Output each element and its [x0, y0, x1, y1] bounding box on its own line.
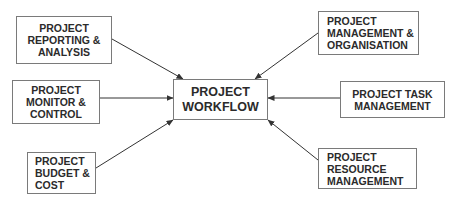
node-project-management-organisation: PROJECT MANAGEMENT & ORGANISATION: [318, 11, 419, 55]
node-project-budget-cost: PROJECT BUDGET & COST: [27, 152, 96, 194]
node-label-line: MONITOR &: [26, 96, 86, 108]
arrow-management-to-workflow: [255, 33, 318, 79]
node-label-line: MANAGEMENT: [354, 100, 430, 112]
node-label-line: PROJECT: [39, 22, 89, 34]
node-label-line: MANAGEMENT: [327, 175, 403, 187]
node-label-line: PROJECT: [327, 15, 377, 27]
node-label-line: BUDGET &: [35, 167, 90, 179]
node-label-line: WORKFLOW: [182, 100, 258, 115]
node-label-line: RESOURCE: [327, 163, 387, 175]
node-label-line: COST: [35, 179, 64, 191]
node-label-line: MANAGEMENT &: [327, 27, 414, 39]
node-label-line: PROJECT: [31, 84, 81, 96]
node-label-line: PROJECT: [191, 85, 250, 100]
node-project-task-management: PROJECT TASK MANAGEMENT: [340, 81, 445, 118]
node-project-workflow: PROJECT WORKFLOW: [173, 79, 268, 120]
node-label-line: PROJECT TASK: [352, 88, 432, 100]
node-label-line: PROJECT: [35, 155, 85, 167]
node-project-monitor-control: PROJECT MONITOR & CONTROL: [12, 80, 100, 124]
arrow-budget-to-workflow: [96, 120, 173, 168]
node-label-line: ANALYSIS: [38, 46, 90, 58]
node-label-line: ORGANISATION: [327, 39, 408, 51]
node-project-reporting-analysis: PROJECT REPORTING & ANALYSIS: [16, 16, 112, 64]
node-label-line: PROJECT: [327, 151, 377, 163]
node-project-resource-management: PROJECT RESOURCE MANAGEMENT: [318, 148, 417, 189]
node-label-line: REPORTING &: [28, 34, 101, 46]
project-workflow-diagram: PROJECT WORKFLOW PROJECT REPORTING & ANA…: [0, 0, 458, 205]
arrow-resource-to-workflow: [268, 120, 318, 160]
node-label-line: CONTROL: [30, 108, 82, 120]
arrow-reporting-to-workflow: [112, 39, 183, 79]
